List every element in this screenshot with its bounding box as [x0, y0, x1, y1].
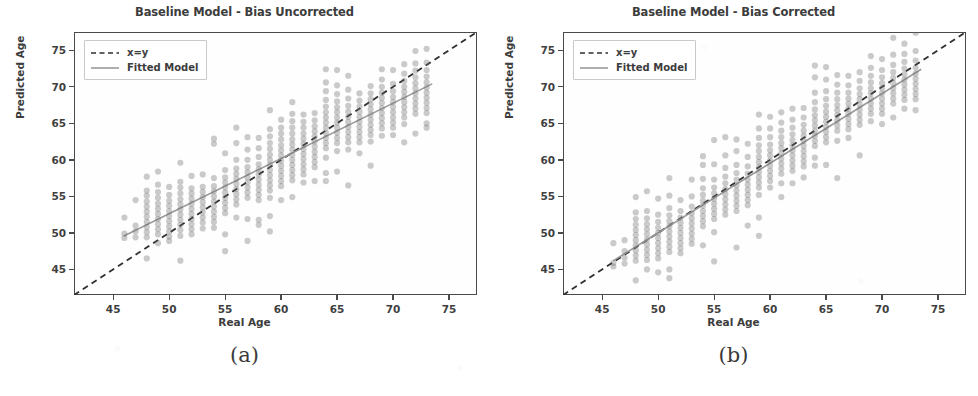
panel-a-x-tickmark	[113, 295, 114, 300]
panel-b-x-tick-label: 60	[763, 303, 778, 315]
panel-a-x-tickmark	[280, 295, 281, 300]
panel-b-y-tickmark	[558, 196, 563, 197]
panel-a-y-tick-label: 75	[51, 44, 66, 56]
panel-b-y-tick-label: 45	[540, 263, 555, 275]
panel-b-y-tick-label: 55	[540, 190, 555, 202]
panel-b-legend: x=y Fitted Model	[573, 40, 696, 80]
panel-b-x-tickmark	[658, 295, 659, 300]
panel-a-x-tick-label: 55	[218, 303, 233, 315]
panel-b-x-tickmark	[881, 295, 882, 300]
panel-b-y-tickmark	[558, 232, 563, 233]
panel-a-y-tick-label: 65	[51, 117, 66, 129]
panel-a-y-tick-label: 55	[51, 190, 66, 202]
panel-b-y-tick-label: 50	[540, 227, 555, 239]
panel-a-plot-area: x=y Fitted Model	[74, 32, 477, 295]
panel-b-x-tick-label: 70	[875, 303, 890, 315]
panel-b-x-tick-label: 55	[707, 303, 722, 315]
panel-a-y-axis-label-text: Predicted Age	[14, 36, 26, 119]
panel-a-legend-label-identity: x=y	[127, 47, 148, 58]
panel-a-x-tick-label: 60	[274, 303, 289, 315]
panel-a-y-tickmark	[69, 159, 74, 160]
panel-b-legend-label-fitted: Fitted Model	[616, 62, 687, 73]
panel-b-legend-row-identity: x=y	[579, 45, 687, 60]
panel-a-y-tickmark	[69, 196, 74, 197]
panel-a-x-tick-label: 65	[330, 303, 345, 315]
panel-a-y-tick-label: 50	[51, 227, 66, 239]
panel-a-legend: x=y Fitted Model	[84, 40, 207, 80]
panel-a-y-axis-label: Predicted Age	[14, 36, 26, 119]
panel-a: Baseline Model - Bias Uncorrected Predic…	[0, 0, 489, 396]
panel-a-y-tickmark	[69, 86, 74, 87]
panel-a-y-tickmark	[69, 50, 74, 51]
panel-b-y-tickmark	[558, 50, 563, 51]
panel-a-x-axis-label: Real Age	[0, 316, 489, 328]
panel-a-x-tickmark	[225, 295, 226, 300]
panel-b-caption: (b)	[489, 343, 978, 367]
panel-b-x-axis-label: Real Age	[489, 316, 978, 328]
panel-a-legend-label-fitted: Fitted Model	[127, 62, 198, 73]
panel-b-y-tickmark	[558, 159, 563, 160]
panel-a-x-tickmark	[169, 295, 170, 300]
panel-a-y-tickmark	[69, 123, 74, 124]
panel-a-y-tick-label: 45	[51, 263, 66, 275]
dashed-line-icon	[579, 48, 609, 58]
solid-line-icon	[90, 63, 120, 73]
panel-a-x-tickmark	[448, 295, 449, 300]
panel-b-x-tickmark	[714, 295, 715, 300]
panel-a-x-tick-label: 75	[442, 303, 457, 315]
panel-b-x-tickmark	[937, 295, 938, 300]
panel-a-y-tick-label: 60	[51, 154, 66, 166]
panel-b-y-axis-label-text: Predicted Age	[503, 36, 515, 119]
panel-a-x-tick-label: 70	[386, 303, 401, 315]
dashed-line-icon	[90, 48, 120, 58]
panel-b-legend-row-fitted: Fitted Model	[579, 60, 687, 75]
panel-b-y-tickmark	[558, 86, 563, 87]
panel-b-y-tick-label: 65	[540, 117, 555, 129]
panel-a-x-tick-label: 50	[162, 303, 177, 315]
panel-b-x-tickmark	[769, 295, 770, 300]
panel-b-legend-label-identity: x=y	[616, 47, 637, 58]
panel-b-plot-area: x=y Fitted Model	[563, 32, 966, 295]
panel-b-title: Baseline Model - Bias Corrected	[489, 5, 978, 19]
panel-a-x-tick-label: 45	[106, 303, 121, 315]
panel-a-y-tick-label: 70	[51, 81, 66, 93]
figure-container: Baseline Model - Bias Uncorrected Predic…	[0, 0, 978, 396]
panel-b-y-tickmark	[558, 269, 563, 270]
panel-b-y-tickmark	[558, 123, 563, 124]
panel-a-x-tickmark	[336, 295, 337, 300]
panel-a-y-tickmark	[69, 232, 74, 233]
panel-b-x-tick-label: 50	[651, 303, 666, 315]
panel-b-x-tickmark	[602, 295, 603, 300]
panel-a-legend-row-identity: x=y	[90, 45, 198, 60]
panel-b-y-axis-label: Predicted Age	[503, 36, 515, 119]
panel-a-x-tickmark	[392, 295, 393, 300]
panel-a-y-tickmark	[69, 269, 74, 270]
panel-b: Baseline Model - Bias Corrected Predicte…	[489, 0, 978, 396]
panel-b-x-tick-label: 65	[819, 303, 834, 315]
panel-b-y-tick-label: 75	[540, 44, 555, 56]
panel-a-legend-row-fitted: Fitted Model	[90, 60, 198, 75]
panel-b-x-tick-label: 75	[931, 303, 946, 315]
panel-b-y-tick-label: 70	[540, 81, 555, 93]
panel-a-caption: (a)	[0, 343, 489, 367]
panel-b-x-tickmark	[825, 295, 826, 300]
panel-b-x-tick-label: 45	[595, 303, 610, 315]
solid-line-icon	[579, 63, 609, 73]
panel-a-title: Baseline Model - Bias Uncorrected	[0, 5, 489, 19]
panel-b-y-tick-label: 60	[540, 154, 555, 166]
